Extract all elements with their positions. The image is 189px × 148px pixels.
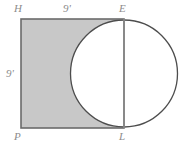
vertex-label-h: H	[14, 3, 22, 14]
vertex-label-p: P	[14, 131, 21, 142]
geometry-canvas	[0, 0, 189, 148]
vertex-label-l: L	[119, 131, 125, 142]
shaded-region	[21, 19, 124, 128]
dimension-label-left: 9'	[6, 68, 14, 79]
vertex-label-e: E	[119, 3, 126, 14]
geometry-figure: H E L P 9' 9'	[0, 0, 189, 148]
dimension-label-top: 9'	[63, 3, 71, 14]
